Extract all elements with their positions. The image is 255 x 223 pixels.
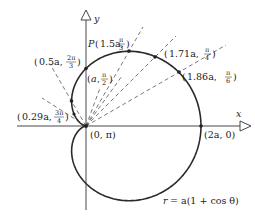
x-axis-label: x — [236, 108, 242, 119]
svg-text:): ) — [77, 56, 81, 67]
svg-text:(: ( — [182, 71, 186, 82]
svg-text:2: 2 — [102, 79, 106, 87]
svg-text:3: 3 — [69, 62, 73, 70]
svg-text:= a(1 + cos θ): = a(1 + cos θ) — [170, 195, 239, 206]
svg-text:6: 6 — [226, 77, 230, 85]
label-029a-3pi4: ( 0.29a, 3π 4 ) — [17, 109, 69, 125]
svg-text:π: π — [102, 71, 107, 79]
svg-text:(: ( — [34, 56, 38, 67]
svg-text:1.71a,: 1.71a, — [169, 48, 199, 59]
point-2a-0 — [199, 124, 203, 128]
svg-text:r: r — [163, 195, 169, 206]
svg-text:): ) — [233, 71, 237, 82]
svg-text:π: π — [226, 69, 231, 77]
y-axis-label: y — [93, 13, 100, 24]
label-2a-0: (2a, 0) — [204, 129, 235, 140]
svg-text:): ) — [109, 73, 113, 84]
svg-text:π: π — [205, 46, 210, 54]
svg-text:4: 4 — [205, 54, 209, 62]
cardioid-diagram: y x (0, π) (2a, 0) ( 1.86a, π 6 ) ( 1.71… — [0, 0, 255, 223]
y-axis-arrow-icon — [81, 10, 91, 20]
svg-text:3π: 3π — [55, 109, 64, 117]
point-a-pi2 — [84, 67, 88, 71]
point-P — [127, 49, 131, 53]
svg-text:(: ( — [95, 38, 99, 49]
label-186a-pi6: ( 1.86a, π 6 ) — [182, 69, 237, 85]
svg-text:): ) — [212, 48, 216, 59]
label-a-pi2: ( a , π 2 ) — [87, 71, 113, 87]
point-171a-pi4 — [153, 55, 157, 59]
point-05a-2pi3 — [70, 99, 74, 103]
svg-text:1.86a,: 1.86a, — [187, 71, 217, 82]
svg-text:0.5a,: 0.5a, — [39, 56, 63, 67]
svg-text:0.29a,: 0.29a, — [22, 111, 52, 122]
svg-text:(: ( — [164, 48, 168, 59]
svg-text:4: 4 — [57, 117, 61, 125]
point-origin — [84, 124, 88, 128]
svg-text:): ) — [126, 38, 130, 49]
equation-label: r = a(1 + cos θ) — [163, 195, 239, 206]
svg-text:P: P — [87, 38, 95, 49]
point-186a-pi6 — [177, 70, 181, 74]
ray-extra-2 — [86, 88, 100, 126]
svg-text:): ) — [65, 111, 69, 122]
label-05a-2pi3: ( 0.5a, 2π 3 ) — [34, 54, 81, 70]
label-171a-pi4: ( 1.71a, π 4 ) — [164, 46, 216, 62]
svg-text:3: 3 — [119, 44, 123, 52]
svg-text:(: ( — [17, 111, 21, 122]
point-029a-3pi4 — [72, 112, 75, 115]
svg-text:π: π — [119, 36, 124, 44]
axes — [17, 10, 251, 210]
svg-text:2π: 2π — [67, 54, 76, 62]
label-origin: (0, π) — [90, 129, 116, 140]
x-axis-arrow-icon — [240, 121, 251, 131]
label-P: P ( 1.5a, π 3 ) — [87, 36, 130, 52]
svg-text:,: , — [97, 73, 100, 84]
